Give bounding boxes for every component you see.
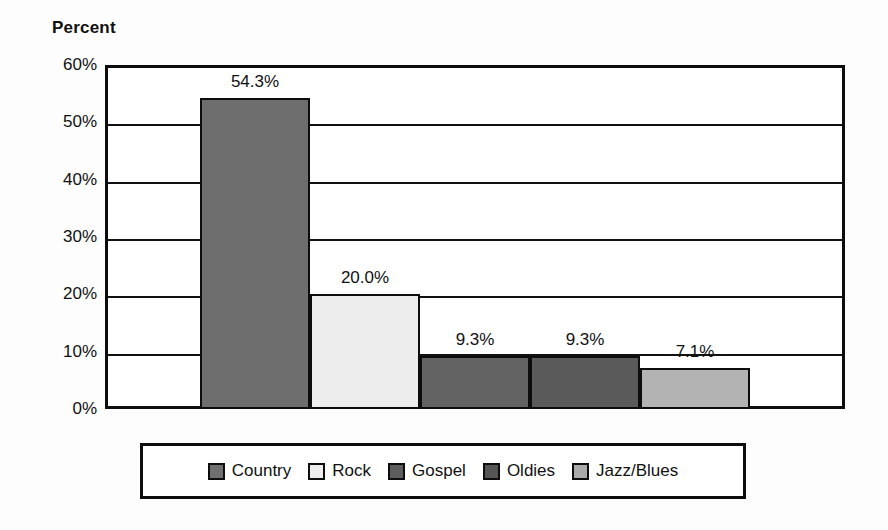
bars-layer: 54.3%20.0%9.3%9.3%7.1% xyxy=(105,65,845,409)
chart-page: Percent 0%10%20%30%40%50%60% 54.3%20.0%9… xyxy=(0,0,888,530)
y-axis-tick-label: 10% xyxy=(41,342,97,362)
chart-legend: CountryRockGospelOldiesJazz/Blues xyxy=(140,443,746,499)
y-axis-tick-label: 50% xyxy=(41,112,97,132)
legend-entry[interactable]: Jazz/Blues xyxy=(572,461,678,481)
y-axis-tick-label: 30% xyxy=(41,227,97,247)
legend-label: Country xyxy=(232,461,292,481)
bar-value-label: 7.1% xyxy=(676,342,715,362)
legend-entry[interactable]: Country xyxy=(208,461,292,481)
legend-entry[interactable]: Gospel xyxy=(388,461,466,481)
legend-swatch-icon xyxy=(483,463,500,480)
legend-entry[interactable]: Rock xyxy=(308,461,371,481)
y-axis-tick-labels: 0%10%20%30%40%50%60% xyxy=(37,65,97,409)
y-axis-tick-label: 40% xyxy=(41,170,97,190)
legend-label: Jazz/Blues xyxy=(596,461,678,481)
y-axis-tick-label: 20% xyxy=(41,284,97,304)
bar xyxy=(310,294,420,409)
bar xyxy=(530,356,640,409)
bar-value-label: 9.3% xyxy=(456,330,495,350)
bar-value-label: 54.3% xyxy=(231,72,279,92)
legend-label: Gospel xyxy=(412,461,466,481)
legend-swatch-icon xyxy=(572,463,589,480)
bar-value-label: 20.0% xyxy=(341,268,389,288)
legend-swatch-icon xyxy=(208,463,225,480)
bar-value-label: 9.3% xyxy=(566,330,605,350)
y-axis-tick-label: 0% xyxy=(41,399,97,419)
bar xyxy=(640,368,750,409)
bar xyxy=(200,98,310,409)
legend-label: Rock xyxy=(332,461,371,481)
bar xyxy=(420,356,530,409)
legend-swatch-icon xyxy=(308,463,325,480)
legend-entry[interactable]: Oldies xyxy=(483,461,555,481)
y-axis-title: Percent xyxy=(52,18,116,38)
legend-swatch-icon xyxy=(388,463,405,480)
y-axis-tick-label: 60% xyxy=(41,55,97,75)
legend-label: Oldies xyxy=(507,461,555,481)
